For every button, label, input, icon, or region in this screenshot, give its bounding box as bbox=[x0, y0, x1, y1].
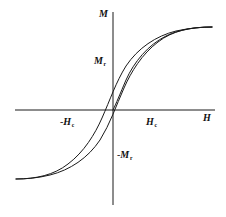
remanence-symbol: M bbox=[94, 55, 103, 66]
coercivity-subscript: c bbox=[154, 122, 157, 128]
remanence-subscript: r bbox=[104, 61, 107, 67]
h-axis-label: H bbox=[203, 113, 211, 123]
coercivity-symbol: H bbox=[146, 116, 154, 127]
m-axis-label: M bbox=[99, 9, 108, 19]
negative-remanence-symbol: M bbox=[120, 149, 129, 160]
negative-coercivity-symbol: H bbox=[63, 116, 71, 127]
initial-magnetization-curve bbox=[113, 27, 212, 110]
negative-remanence-label: -Mr bbox=[117, 150, 132, 160]
upper-hysteresis-branch bbox=[16, 27, 212, 179]
coercivity-label: Hc bbox=[146, 117, 157, 127]
lower-hysteresis-branch bbox=[16, 27, 212, 179]
negative-coercivity-label: -Hc bbox=[60, 117, 74, 127]
h-axis-label-text: H bbox=[203, 112, 211, 123]
m-axis-label-text: M bbox=[99, 8, 108, 19]
hysteresis-plot bbox=[0, 0, 226, 217]
hysteresis-figure: M Mr -Mr Hc -Hc H bbox=[0, 0, 226, 217]
negative-remanence-subscript: r bbox=[130, 155, 133, 161]
remanence-label: Mr bbox=[94, 56, 106, 66]
